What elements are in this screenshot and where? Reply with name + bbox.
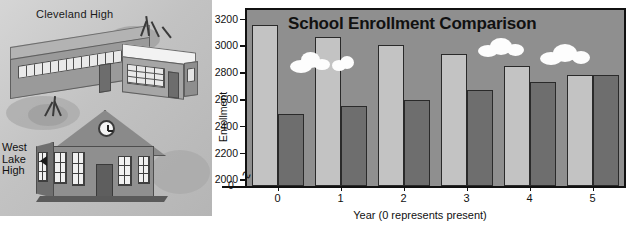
- x-axis-tick: [278, 186, 280, 191]
- cleveland-side-window: [187, 67, 195, 82]
- school-illustration: Cleveland High West Lake High: [0, 0, 212, 216]
- enrollment-bar-chart: Enrollment 2000220024002600280030003200 …: [212, 0, 628, 234]
- bar-cleveland-high-year-0[interactable]: [252, 25, 278, 186]
- x-axis-tick: [593, 186, 595, 191]
- y-axis-tick-label: 2400: [215, 120, 238, 132]
- westlake-window: [138, 156, 150, 184]
- x-axis-tick-label: 0: [274, 192, 280, 204]
- bar-west-lake-high-year-5[interactable]: [593, 75, 619, 186]
- y-axis-tick-label: 2600: [215, 93, 238, 105]
- axis-break-icon: ∿: [241, 168, 251, 182]
- westlake-window: [54, 152, 67, 184]
- x-axis-tick-label: 1: [337, 192, 343, 204]
- x-axis-tick: [341, 186, 343, 191]
- bar-cleveland-high-year-4[interactable]: [504, 66, 530, 186]
- westlake-window: [72, 152, 85, 186]
- bar-cleveland-high-year-2[interactable]: [378, 45, 404, 186]
- clock-icon: [98, 120, 115, 137]
- x-axis-title: Year (0 represents present): [212, 209, 628, 221]
- label-westlake-high: West Lake High: [2, 142, 27, 177]
- y-axis-tick-label: 2800: [215, 66, 238, 78]
- x-axis-tick-label: 2: [400, 192, 406, 204]
- x-axis-tick: [530, 186, 532, 191]
- westlake-foundation: [36, 196, 168, 202]
- bar-west-lake-high-year-0[interactable]: [278, 114, 304, 186]
- label-westlake-line3: High: [2, 165, 27, 177]
- screenshot-root: Cleveland High West Lake High Enrollment…: [0, 0, 628, 234]
- y-axis-tick-label: 3200: [215, 13, 238, 25]
- y-axis-tick-label: 2200: [215, 147, 238, 159]
- bar-west-lake-high-year-4[interactable]: [530, 82, 556, 186]
- x-axis-tick: [404, 186, 406, 191]
- y-axis-line: [245, 8, 247, 186]
- y-axis-origin-label: 0: [228, 179, 234, 191]
- bush-blob: [150, 150, 210, 194]
- cleveland-door-wing: [99, 63, 111, 93]
- bar-cleveland-high-year-3[interactable]: [441, 54, 467, 186]
- bar-west-lake-high-year-3[interactable]: [467, 90, 493, 186]
- bar-west-lake-high-year-2[interactable]: [404, 100, 430, 186]
- westlake-door: [96, 164, 113, 198]
- x-axis-tick-label: 3: [463, 192, 469, 204]
- westlake-window: [118, 156, 132, 186]
- y-axis-tick-label: 2000: [215, 173, 238, 185]
- chart-title: School Enrollment Comparison: [288, 14, 536, 34]
- westlake-pointer-icon: [40, 156, 47, 166]
- label-cleveland-high: Cleveland High: [36, 8, 113, 20]
- y-axis-tick-label: 3000: [215, 39, 238, 51]
- label-westlake-line1: West: [2, 142, 27, 154]
- bar-west-lake-high-year-1[interactable]: [341, 106, 367, 186]
- x-axis-tick: [467, 186, 469, 191]
- cleveland-door-front: [168, 71, 179, 98]
- x-axis-line: [222, 186, 624, 188]
- bar-cleveland-high-year-5[interactable]: [567, 75, 593, 186]
- x-axis-tick-label: 5: [589, 192, 595, 204]
- x-axis-tick-label: 4: [526, 192, 532, 204]
